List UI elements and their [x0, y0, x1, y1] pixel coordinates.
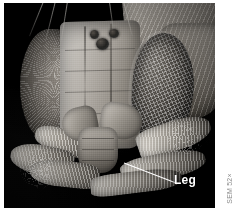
- sem-image: Leg: [4, 3, 215, 208]
- ocellus-right: [109, 29, 119, 38]
- ocellus-left: [90, 30, 99, 39]
- cuticle-ridge: [65, 69, 135, 72]
- leg-label: Leg: [174, 174, 196, 186]
- cuticle-ridge: [65, 90, 135, 93]
- magnification-credit-text: SEM 52×: [226, 173, 233, 203]
- tarsal-tuft-left: [6, 143, 52, 191]
- ocellus-median: [96, 38, 109, 50]
- sem-micrograph-figure: Leg SEM 52×: [0, 0, 235, 215]
- labrum-ridge: [82, 149, 114, 150]
- labrum-ridge: [82, 160, 114, 161]
- magnification-credit: SEM 52×: [223, 165, 235, 211]
- labrum-ridge: [82, 138, 114, 139]
- micrograph-plate: Leg: [4, 3, 215, 208]
- tarsal-tuft-right: [168, 115, 215, 161]
